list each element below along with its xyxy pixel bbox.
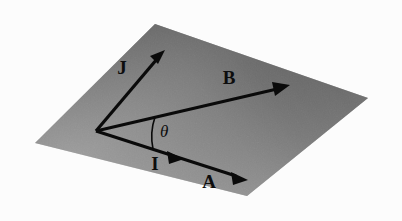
angle-theta-label: θ <box>160 122 168 141</box>
vector-i-label: I <box>151 153 158 174</box>
figure-canvas: J B A I θ <box>0 0 402 221</box>
vector-b-label: B <box>223 67 236 88</box>
vector-diagram-figure: J B A I θ <box>0 0 402 221</box>
vector-a-label: A <box>202 171 216 192</box>
vector-j-label: J <box>117 57 127 78</box>
